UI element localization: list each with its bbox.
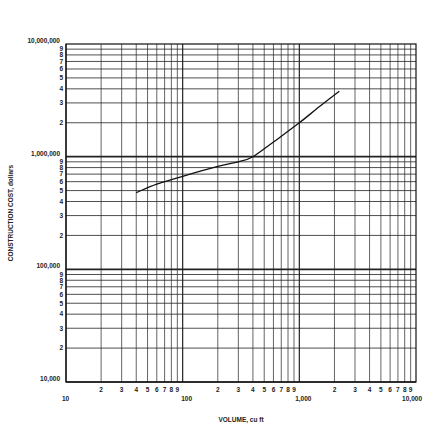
x-minor-tick-label: 4 bbox=[368, 386, 372, 393]
x-minor-tick-label: 9 bbox=[176, 386, 180, 393]
y-minor-tick-label: 3 bbox=[59, 325, 63, 332]
y-minor-tick-label: 4 bbox=[59, 310, 63, 317]
y-minor-tick-label: 4 bbox=[59, 85, 63, 92]
y-minor-tick-label: 2 bbox=[59, 344, 63, 351]
x-minor-tick-label: 3 bbox=[237, 386, 241, 393]
cost-curve bbox=[136, 91, 339, 192]
y-minor-tick-label: 5 bbox=[59, 300, 63, 307]
x-minor-tick-label: 4 bbox=[251, 386, 255, 393]
x-minor-tick-label: 7 bbox=[163, 386, 167, 393]
y-axis-label: CONSTRUCTION COST, dollars bbox=[7, 164, 15, 261]
y-minor-tick-label: 7 bbox=[59, 58, 63, 65]
x-major-tick-label: 1,000 bbox=[295, 395, 312, 403]
x-minor-tick-label: 2 bbox=[216, 386, 220, 393]
y-minor-tick-label: 7 bbox=[59, 170, 63, 177]
x-major-tick-label: 10,000 bbox=[402, 395, 422, 403]
x-minor-tick-label: 8 bbox=[403, 386, 407, 393]
y-minor-tick-label: 4 bbox=[59, 198, 63, 205]
y-major-tick-label: 100,000 bbox=[37, 262, 61, 270]
y-minor-tick-label: 6 bbox=[59, 65, 63, 72]
plot-frame bbox=[66, 44, 416, 382]
x-minor-tick-label: 8 bbox=[286, 386, 290, 393]
y-minor-tick-label: 5 bbox=[59, 187, 63, 194]
y-minor-tick-label: 3 bbox=[59, 99, 63, 106]
y-minor-tick-label: 3 bbox=[59, 212, 63, 219]
x-minor-tick-label: 9 bbox=[292, 386, 296, 393]
x-minor-tick-label: 9 bbox=[409, 386, 413, 393]
grid-lines bbox=[66, 44, 416, 382]
y-minor-tick-label: 2 bbox=[59, 232, 63, 239]
x-major-tick-label: 10 bbox=[62, 395, 70, 402]
log-log-chart: 234567892345678923456789101001,00010,000… bbox=[0, 0, 439, 439]
y-minor-tick-label: 7 bbox=[59, 283, 63, 290]
x-minor-tick-label: 4 bbox=[134, 386, 138, 393]
x-minor-tick-label: 7 bbox=[279, 386, 283, 393]
y-minor-tick-label: 5 bbox=[59, 74, 63, 81]
y-minor-tick-label: 9 bbox=[59, 158, 63, 165]
x-minor-tick-label: 3 bbox=[120, 386, 124, 393]
x-minor-tick-label: 5 bbox=[262, 386, 266, 393]
x-minor-tick-label: 5 bbox=[379, 386, 383, 393]
x-minor-tick-label: 3 bbox=[353, 386, 357, 393]
y-minor-tick-label: 9 bbox=[59, 45, 63, 52]
x-minor-tick-label: 8 bbox=[170, 386, 174, 393]
x-minor-tick-label: 7 bbox=[396, 386, 400, 393]
x-minor-tick-label: 6 bbox=[155, 386, 159, 393]
x-minor-tick-label: 6 bbox=[388, 386, 392, 393]
y-major-tick-label: 1,000,000 bbox=[31, 150, 60, 158]
x-major-tick-label: 100 bbox=[181, 395, 192, 402]
y-minor-tick-label: 9 bbox=[59, 271, 63, 278]
x-axis-label: VOLUME, cu ft bbox=[218, 416, 264, 424]
x-minor-tick-label: 6 bbox=[272, 386, 276, 393]
y-major-tick-label: 10,000,000 bbox=[27, 37, 60, 45]
x-minor-tick-label: 5 bbox=[146, 386, 150, 393]
x-minor-tick-label: 2 bbox=[99, 386, 103, 393]
y-major-tick-label: 10,000 bbox=[40, 375, 60, 383]
y-minor-tick-label: 2 bbox=[59, 119, 63, 126]
y-minor-tick-label: 6 bbox=[59, 291, 63, 298]
x-minor-tick-label: 2 bbox=[333, 386, 337, 393]
y-minor-tick-label: 6 bbox=[59, 178, 63, 185]
